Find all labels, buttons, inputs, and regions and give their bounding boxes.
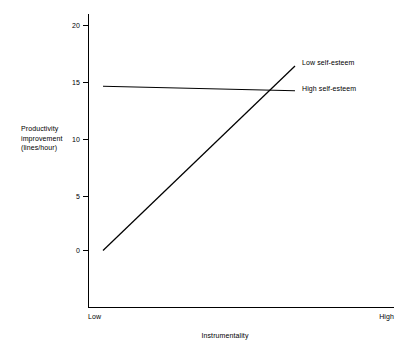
x-category-label-high: High <box>354 312 394 321</box>
series-line-high-self-esteem <box>103 86 295 91</box>
x-axis-title: Instrumentality <box>165 331 285 340</box>
chart-canvas <box>0 0 410 352</box>
y-tick-label-0: 0 <box>58 246 80 255</box>
y-axis-title-line-1: Productivity <box>21 124 91 134</box>
series-label-high-self-esteem: High self-esteem <box>302 84 356 93</box>
y-axis-title-line-2: improvement <box>21 134 91 144</box>
y-tick-label-5: 5 <box>58 192 80 201</box>
series-label-low-self-esteem: Low self-esteem <box>302 58 354 67</box>
y-tick-label-15: 15 <box>58 78 80 87</box>
x-category-label-low: Low <box>88 312 101 321</box>
y-axis-title-line-3: (lines/hour) <box>21 143 91 153</box>
y-tick-label-20: 20 <box>58 21 80 30</box>
chart-figure: 20 15 10 5 0 Productivity improvement (l… <box>0 0 410 352</box>
series-line-low-self-esteem <box>103 66 295 251</box>
